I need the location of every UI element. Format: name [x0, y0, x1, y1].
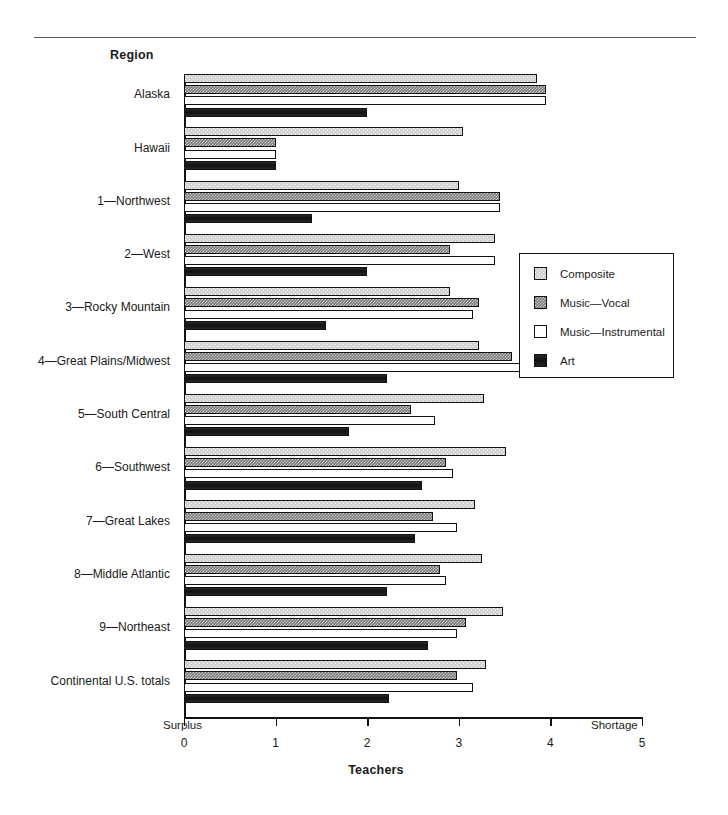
bar: [184, 181, 459, 190]
category-group: 1—Northwest: [184, 181, 642, 224]
category-label: 7—Great Lakes: [86, 514, 170, 528]
bar: [184, 565, 440, 574]
legend-swatch-icon: [534, 267, 547, 280]
bar: [184, 660, 486, 669]
bar: [184, 161, 276, 170]
bar: [184, 321, 326, 330]
bar: [184, 374, 387, 383]
bar: [184, 641, 428, 650]
bar: [184, 587, 387, 596]
category-label: 5—South Central: [78, 407, 170, 421]
bar: [184, 352, 512, 361]
bar: [184, 576, 446, 585]
category-label: Alaska: [134, 87, 170, 101]
category-group: 8—Middle Atlantic: [184, 554, 642, 597]
grouped-bar-chart: Region AlaskaHawaii1—Northwest2—West3—Ro…: [0, 0, 728, 815]
legend-item[interactable]: Composite: [534, 267, 615, 280]
x-axis-tick-label: 2: [364, 736, 371, 750]
legend-item[interactable]: Art: [534, 354, 575, 367]
x-axis-tick-label: 5: [639, 736, 646, 750]
bar: [184, 458, 446, 467]
category-label: 9—Northeast: [99, 620, 170, 634]
bar: [184, 245, 450, 254]
bar: [184, 310, 473, 319]
bar: [184, 138, 276, 147]
bar: [184, 629, 457, 638]
legend-label: Music—Instrumental: [560, 326, 665, 338]
bar: [184, 694, 389, 703]
bar: [184, 203, 500, 212]
bar: [184, 234, 495, 243]
category-group: 6—Southwest: [184, 447, 642, 490]
bar: [184, 363, 525, 372]
legend-item[interactable]: Music—Instrumental: [534, 325, 665, 338]
bar: [184, 427, 349, 436]
x-axis-tick: [642, 717, 643, 726]
category-group: Alaska: [184, 74, 642, 117]
bar: [184, 127, 463, 136]
plot-area: AlaskaHawaii1—Northwest2—West3—Rocky Mou…: [184, 74, 642, 714]
legend-label: Music—Vocal: [560, 297, 630, 309]
category-group: Continental U.S. totals: [184, 660, 642, 703]
category-label: 8—Middle Atlantic: [74, 567, 170, 581]
bar: [184, 214, 312, 223]
category-label: 1—Northwest: [97, 194, 170, 208]
bar: [184, 671, 457, 680]
bar: [184, 96, 546, 105]
legend-swatch-icon: [534, 325, 547, 338]
x-axis-tick-label: 3: [455, 736, 462, 750]
x-axis-tick: [276, 717, 277, 726]
legend-label: Composite: [560, 268, 615, 280]
bar: [184, 256, 495, 265]
bar: [184, 108, 367, 117]
bar: [184, 150, 276, 159]
x-axis-tick-label: 1: [272, 736, 279, 750]
chart-legend: CompositeMusic—VocalMusic—InstrumentalAr…: [519, 253, 674, 378]
bar: [184, 192, 500, 201]
bar: [184, 469, 453, 478]
category-group: 9—Northeast: [184, 607, 642, 650]
bar: [184, 394, 484, 403]
legend-item[interactable]: Music—Vocal: [534, 296, 630, 309]
category-label: Continental U.S. totals: [51, 674, 170, 688]
x-axis-high-label: Shortage: [591, 719, 638, 731]
bar: [184, 523, 457, 532]
category-group: Hawaii: [184, 127, 642, 170]
legend-swatch-icon: [534, 296, 547, 309]
bar: [184, 85, 546, 94]
bar: [184, 416, 435, 425]
category-label: 3—Rocky Mountain: [65, 300, 170, 314]
legend-label: Art: [560, 355, 575, 367]
x-axis-tick: [459, 717, 460, 726]
bar: [184, 447, 506, 456]
bar: [184, 683, 473, 692]
bar: [184, 481, 422, 490]
x-axis-title: Teachers: [0, 763, 728, 777]
bar: [184, 405, 411, 414]
bar: [184, 607, 503, 616]
bar: [184, 554, 482, 563]
bar: [184, 341, 479, 350]
x-axis-tick-label: 0: [181, 736, 188, 750]
bar: [184, 618, 466, 627]
category-group: 5—South Central: [184, 394, 642, 437]
x-axis-tick: [550, 717, 551, 726]
category-label: Hawaii: [134, 141, 170, 155]
bar: [184, 298, 479, 307]
category-label: 6—Southwest: [95, 460, 170, 474]
x-axis-low-label: Surplus: [163, 719, 202, 731]
x-axis-tick: [184, 717, 185, 726]
x-axis-tick: [367, 717, 368, 726]
x-axis-tick-label: 4: [547, 736, 554, 750]
bar: [184, 512, 433, 521]
x-axis-line: [184, 717, 642, 719]
legend-swatch-icon: [534, 354, 547, 367]
category-label: 2—West: [124, 247, 170, 261]
bar: [184, 500, 475, 509]
y-axis-title: Region: [110, 48, 154, 62]
bar: [184, 287, 450, 296]
bar: [184, 267, 367, 276]
x-axis-title-text: Teachers: [348, 763, 404, 777]
category-group: 7—Great Lakes: [184, 500, 642, 543]
category-label: 4—Great Plains/Midwest: [38, 354, 170, 368]
